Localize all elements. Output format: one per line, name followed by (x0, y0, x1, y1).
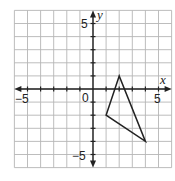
y-tick-label-neg5: −5 (72, 149, 86, 163)
triangle (106, 76, 145, 141)
y-axis-arrow-down-icon (90, 161, 96, 168)
triangle-shape (106, 76, 145, 141)
y-axis-label: y (95, 7, 103, 22)
origin-label: 0 (82, 91, 89, 105)
y-tick-label-pos5: 5 (81, 17, 88, 31)
coordinate-plane: x y 0 −5 5 5 −5 (0, 0, 175, 181)
y-axis-arrow-up-icon (90, 10, 96, 17)
axes (14, 10, 171, 167)
x-tick-label-pos5: 5 (154, 92, 161, 106)
x-axis-label: x (159, 72, 166, 87)
x-tick-label-neg5: −5 (15, 92, 29, 106)
